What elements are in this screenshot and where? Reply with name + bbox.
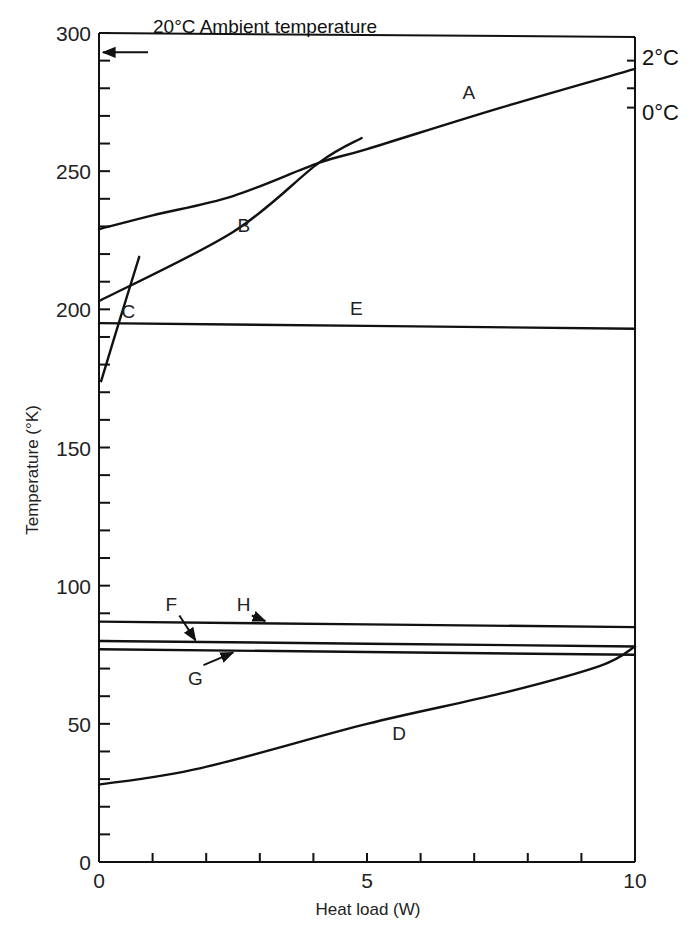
axes [99, 33, 635, 862]
curve-a [99, 69, 635, 229]
curve-label-b: B [237, 215, 250, 236]
y-tick-label: 0 [79, 851, 91, 874]
x-axis-title: Heat load (W) [316, 900, 421, 919]
curve-label-a: A [462, 82, 475, 103]
curve-label-g: G [188, 668, 203, 689]
y-tick-label: 50 [68, 713, 91, 736]
curve-label-c: C [122, 301, 136, 322]
y-tick-label: 300 [56, 22, 91, 45]
arrow-f [179, 616, 195, 641]
curve-e [99, 323, 635, 329]
curve-d [99, 646, 635, 784]
y-axis-title: Temperature (°K) [23, 405, 42, 535]
x-tick-label: 10 [623, 869, 646, 892]
curve-h [99, 622, 635, 628]
arrow-h [252, 616, 265, 621]
curve-g [99, 649, 635, 655]
curves [99, 69, 635, 785]
y-tick-label: 250 [56, 160, 91, 183]
ambient-temperature-annotation: 20°C Ambient temperature [153, 16, 377, 37]
heat-load-temperature-chart: 0501001502002503000510 ABCDEFGH Heat loa… [0, 0, 695, 934]
curve-f [99, 641, 635, 647]
y-tick-label: 100 [56, 575, 91, 598]
curve-label-d: D [392, 723, 406, 744]
y-tick-label: 150 [56, 437, 91, 460]
right-axis-label-2c: 2°C [642, 45, 679, 70]
x-tick-label: 0 [93, 869, 105, 892]
curve-label-h: H [237, 594, 251, 615]
curve-label-f: F [166, 594, 178, 615]
x-tick-label: 5 [361, 869, 373, 892]
y-tick-label: 200 [56, 298, 91, 321]
right-axis-label-0c: 0°C [642, 100, 679, 125]
curve-label-e: E [350, 298, 363, 319]
arrow-g [203, 653, 233, 666]
